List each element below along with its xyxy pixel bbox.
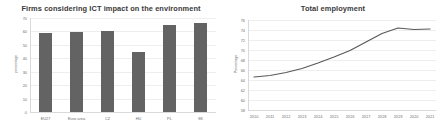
x-tick-label: 2010 <box>250 114 259 119</box>
bar <box>163 25 176 112</box>
bar <box>39 33 52 112</box>
gridline <box>248 110 436 111</box>
y-tick-label: 40 <box>14 56 27 61</box>
x-tick-label: Euro area <box>68 116 85 121</box>
gridline <box>30 31 216 32</box>
y-tick-label: 60 <box>14 29 27 34</box>
bar <box>101 31 114 112</box>
bar <box>132 52 145 112</box>
y-tick-label: 74 <box>232 28 245 33</box>
x-tick-label: 2021 <box>426 114 435 119</box>
gridline <box>30 18 216 19</box>
x-tick-label: 2012 <box>282 114 291 119</box>
line-series <box>248 20 436 110</box>
x-tick-label: 2019 <box>394 114 403 119</box>
x-tick-label: 2013 <box>298 114 307 119</box>
x-tick-label: 2016 <box>346 114 355 119</box>
bar <box>194 23 207 112</box>
bar-chart-panel: Firms considering ICT impact on the envi… <box>0 0 222 128</box>
y-tick-label: 70 <box>232 48 245 53</box>
y-tick-label: 64 <box>232 78 245 83</box>
y-tick-label: 30 <box>14 69 27 74</box>
x-tick-label: SK <box>198 116 203 121</box>
y-tick-label: 20 <box>14 83 27 88</box>
x-tick-label: EU27 <box>41 116 51 121</box>
y-tick-label: 76 <box>232 18 245 23</box>
gridline <box>30 112 216 113</box>
line-chart-plot-area <box>248 20 436 110</box>
bar-chart-plot-area <box>30 18 216 112</box>
gridline <box>30 45 216 46</box>
line-chart-title: Total employment <box>222 4 444 13</box>
gridline <box>30 85 216 86</box>
y-tick-label: 70 <box>14 16 27 21</box>
y-tick-label: 68 <box>232 58 245 63</box>
gridline <box>30 72 216 73</box>
x-tick-label: HU <box>136 116 142 121</box>
gridline <box>30 99 216 100</box>
x-tick-label: 2017 <box>362 114 371 119</box>
y-tick-label: 60 <box>232 98 245 103</box>
x-tick-label: 2020 <box>410 114 419 119</box>
y-tick-label: 66 <box>232 68 245 73</box>
x-tick-label: 2011 <box>266 114 274 119</box>
y-tick-label: 10 <box>14 96 27 101</box>
y-tick-label: 72 <box>232 38 245 43</box>
y-axis-line <box>30 18 31 112</box>
y-tick-label: 0 <box>14 110 27 115</box>
bar-chart-title: Firms considering ICT impact on the envi… <box>0 4 222 13</box>
y-tick-label: 58 <box>232 108 245 113</box>
bar-chart-y-axis-label: percentage <box>14 44 18 84</box>
bar <box>70 32 83 112</box>
line-chart-panel: Total employment Percentage 586062646668… <box>222 0 444 128</box>
x-tick-label: 2018 <box>378 114 387 119</box>
x-tick-label: 2015 <box>330 114 339 119</box>
x-tick-label: CZ <box>105 116 110 121</box>
dual-chart-figure: Firms considering ICT impact on the envi… <box>0 0 444 128</box>
gridline <box>30 58 216 59</box>
y-tick-label: 50 <box>14 42 27 47</box>
y-tick-label: 62 <box>232 88 245 93</box>
x-tick-label: 2014 <box>314 114 323 119</box>
x-tick-label: PL <box>167 116 172 121</box>
